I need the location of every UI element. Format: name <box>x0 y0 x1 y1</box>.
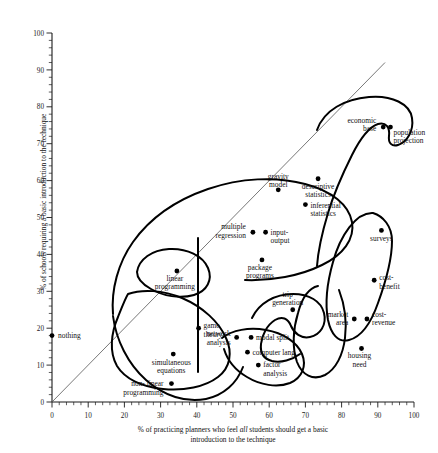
data-label-nothing: nothing <box>58 331 81 340</box>
y-tick-label: 90 <box>37 67 45 75</box>
data-label-gravity-model: gravitymodel <box>268 172 289 189</box>
data-label-network-analysis: networkanalysis <box>206 329 231 346</box>
data-point-game-theory <box>196 326 201 331</box>
y-tick-label: 10 <box>37 362 45 370</box>
x-tick-label: 50 <box>229 412 237 420</box>
x-tick-label: 70 <box>302 412 310 420</box>
data-label-non-linear-programming: non- linearprogramming <box>123 379 164 396</box>
contour-regression-cluster <box>113 179 353 314</box>
x-tick-label: 80 <box>338 412 346 420</box>
data-point-nothing <box>50 333 55 338</box>
data-point-surveys <box>379 228 384 233</box>
data-point-package-programs <box>260 258 265 263</box>
x-axis-title-line2: introduction to the technique <box>190 435 276 444</box>
data-label-trip-generation: tripgeneration <box>272 290 303 307</box>
y-tick-label: 100 <box>33 30 44 38</box>
data-point-cost-benefit <box>372 278 377 283</box>
data-point-economic-base <box>381 125 386 130</box>
data-label-inferential-statistics: inferentialstatistics <box>310 201 340 218</box>
data-point-housing-need <box>359 346 364 351</box>
data-label-surveys: surveys <box>370 234 393 243</box>
data-point-trip-generation <box>290 307 295 312</box>
data-point-simultaneous-equations <box>171 352 176 357</box>
data-label-linear-programming: linearprogramming <box>155 274 196 291</box>
x-tick-label: 40 <box>193 412 201 420</box>
data-label-market-area: marketarea <box>328 310 349 327</box>
data-label-modal-split: modal split <box>256 333 290 342</box>
data-label-input-output: input-output <box>271 228 291 245</box>
data-label-descriptive-statistics: descriptivestatistics <box>302 182 335 199</box>
data-label-computer-lang: computer lang. <box>252 348 296 357</box>
data-point-computer-lang <box>245 350 250 355</box>
data-point-linear-programming <box>174 269 179 274</box>
y-tick-label: 80 <box>37 103 45 111</box>
data-label-cost-revenue: cost-revenue <box>372 310 396 327</box>
data-point-population-projection <box>388 125 393 130</box>
scatter-plot-figure: 0102030405060708090100010203040506070809… <box>0 0 438 453</box>
data-label-housing-need: housingneed <box>348 351 372 368</box>
x-tick-label: 10 <box>85 412 93 420</box>
data-point-network-analysis <box>234 335 239 340</box>
y-tick-label: 20 <box>37 325 45 333</box>
data-point-input-output <box>263 230 268 235</box>
x-tick-label: 100 <box>409 412 420 420</box>
x-axis-title-emphasis: all <box>240 425 248 434</box>
data-label-population-projection: populationprojection <box>393 128 425 145</box>
data-point-modal-split <box>249 335 254 340</box>
data-point-multiple-regression <box>251 230 256 235</box>
y-tick-label: 0 <box>40 399 44 407</box>
data-label-multiple-regression: multipleregression <box>216 222 247 239</box>
data-point-factor-analysis <box>256 363 261 368</box>
x-tick-label: 20 <box>121 412 129 420</box>
x-tick-label: 90 <box>374 412 382 420</box>
data-point-descriptive-statistics <box>316 176 321 181</box>
x-axis-title-line1: % of practicing planners who feel all st… <box>138 425 329 434</box>
plot-canvas: 0102030405060708090100010203040506070809… <box>0 0 438 453</box>
data-point-inferential-statistics <box>303 202 308 207</box>
data-label-simultaneous-equations: simultaneousequations <box>152 358 191 375</box>
x-tick-label: 60 <box>266 412 274 420</box>
x-tick-label: 0 <box>50 412 54 420</box>
x-axis-title-part2: students should get a basic <box>247 425 328 434</box>
data-label-cost-benefit: cost-benefit <box>379 273 400 290</box>
data-point-cost-revenue <box>365 317 370 322</box>
axis-titles: % of schools requiring a basic introduct… <box>39 113 329 444</box>
x-axis-title-part1: % of practicing planners who feel <box>138 425 240 434</box>
y-axis-title: % of schools requiring a basic introduct… <box>39 113 48 290</box>
data-point-non-linear-programming <box>169 381 174 386</box>
data-label-package-programs: packageprograms <box>246 263 274 280</box>
data-label-economic-base: economicbase <box>347 116 376 133</box>
data-label-factor-analysis: factoranalysis <box>263 360 287 377</box>
data-point-market-area <box>352 317 357 322</box>
x-tick-label: 30 <box>157 412 165 420</box>
